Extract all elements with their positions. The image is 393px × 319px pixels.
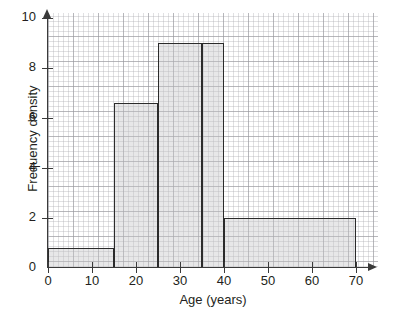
histogram-bar — [202, 43, 224, 268]
y-axis-line — [47, 18, 48, 268]
y-axis-tick-label: 10 — [8, 9, 36, 24]
histogram-chart: 010203040506070 0246810 Age (years) Freq… — [0, 0, 393, 319]
x-axis-tick — [180, 262, 181, 273]
x-axis-tick — [224, 262, 225, 273]
x-axis-tick-label: 10 — [72, 273, 112, 288]
x-axis-tick-label: 20 — [116, 273, 156, 288]
x-axis-tick — [356, 262, 357, 273]
x-axis-line — [47, 267, 369, 268]
x-axis-title: Age (years) — [48, 292, 378, 307]
y-axis-tick — [42, 118, 53, 119]
x-axis-tick — [312, 262, 313, 273]
x-axis-tick-label: 30 — [160, 273, 200, 288]
plot-area — [48, 13, 378, 268]
histogram-bar — [224, 218, 356, 268]
histogram-bar — [48, 248, 114, 268]
histogram-bar — [114, 103, 158, 268]
y-axis-tick — [42, 68, 53, 69]
x-axis-tick — [136, 262, 137, 273]
x-axis-tick — [48, 262, 49, 273]
y-axis-title: Frequency density — [25, 29, 40, 249]
x-axis-tick — [268, 262, 269, 273]
y-axis-tick — [42, 18, 53, 19]
x-axis-tick-label: 40 — [204, 273, 244, 288]
histogram-bar — [158, 43, 202, 268]
x-axis-tick-label: 60 — [292, 273, 332, 288]
y-axis-tick — [42, 168, 53, 169]
x-axis-tick-label: 50 — [248, 273, 288, 288]
x-axis-tick-label: 0 — [28, 273, 68, 288]
histogram-bar-divider — [202, 43, 203, 268]
y-axis-tick — [42, 218, 53, 219]
x-axis-arrow-icon — [368, 263, 377, 271]
y-axis-arrow-icon — [43, 9, 51, 18]
x-axis-tick-label: 70 — [336, 273, 376, 288]
x-axis-tick — [92, 262, 93, 273]
y-axis-tick-label: 0 — [8, 259, 36, 274]
